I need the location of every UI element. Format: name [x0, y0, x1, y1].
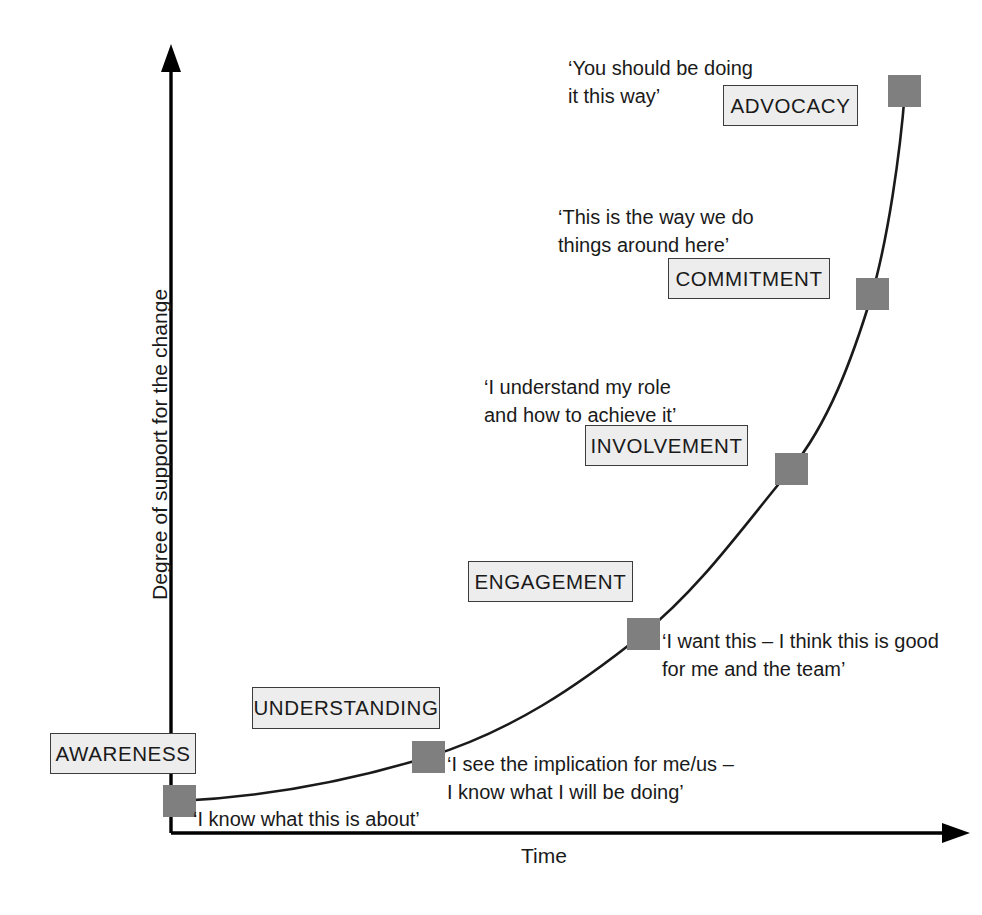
- stage-box-commitment[interactable]: COMMITMENT: [668, 258, 830, 299]
- data-point-involvement[interactable]: [775, 453, 808, 485]
- data-point-understanding[interactable]: [412, 741, 445, 773]
- quote-engagement: ‘I want this – I think this is good for …: [662, 627, 939, 684]
- x-axis-label: Time: [521, 844, 567, 868]
- data-point-advocacy[interactable]: [888, 75, 921, 107]
- stage-box-engagement[interactable]: ENGAGEMENT: [468, 561, 633, 602]
- stage-box-awareness[interactable]: AWARENESS: [50, 733, 196, 774]
- quote-awareness: ‘I know what this is about’: [193, 805, 420, 833]
- quote-understanding: ‘I see the implication for me/us – I kno…: [447, 750, 734, 807]
- data-point-engagement[interactable]: [627, 618, 660, 650]
- data-point-awareness[interactable]: [163, 785, 196, 817]
- quote-advocacy: ‘You should be doing it this way’: [568, 54, 753, 111]
- stage-box-involvement[interactable]: INVOLVEMENT: [585, 425, 748, 466]
- quote-involvement: ‘I understand my role and how to achieve…: [484, 373, 676, 430]
- y-axis-arrowhead: [161, 44, 181, 72]
- data-point-commitment[interactable]: [856, 278, 889, 310]
- diagram-canvas: Degree of support for the change Time AW…: [0, 0, 982, 915]
- y-axis-label: Degree of support for the change: [148, 289, 172, 600]
- quote-commitment: ‘This is the way we do things around her…: [558, 203, 754, 260]
- stage-box-understanding[interactable]: UNDERSTANDING: [252, 687, 440, 729]
- x-axis-arrowhead: [942, 823, 970, 843]
